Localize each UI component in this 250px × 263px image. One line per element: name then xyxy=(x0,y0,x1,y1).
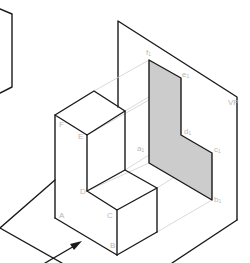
label-b1: b₁ xyxy=(214,196,221,204)
label-f1: f₁ xyxy=(146,49,151,57)
label-A: A xyxy=(59,212,64,220)
projection-diagram xyxy=(0,0,250,263)
label-d1: d₁ xyxy=(184,128,191,136)
label-c1: c₁ xyxy=(214,146,221,154)
label-vp: VP xyxy=(228,99,239,107)
label-e1: e₁ xyxy=(182,71,189,79)
label-C: C xyxy=(107,212,113,220)
label-B: B xyxy=(110,242,115,250)
label-F: F xyxy=(59,121,64,129)
left-partial-plane xyxy=(0,9,12,93)
label-E: E xyxy=(78,133,83,141)
projection-shape xyxy=(149,60,212,200)
label-D: D xyxy=(80,188,86,196)
viewing-direction-arrow xyxy=(45,241,82,263)
l-block xyxy=(55,91,157,255)
label-a1: a₁ xyxy=(137,145,144,153)
